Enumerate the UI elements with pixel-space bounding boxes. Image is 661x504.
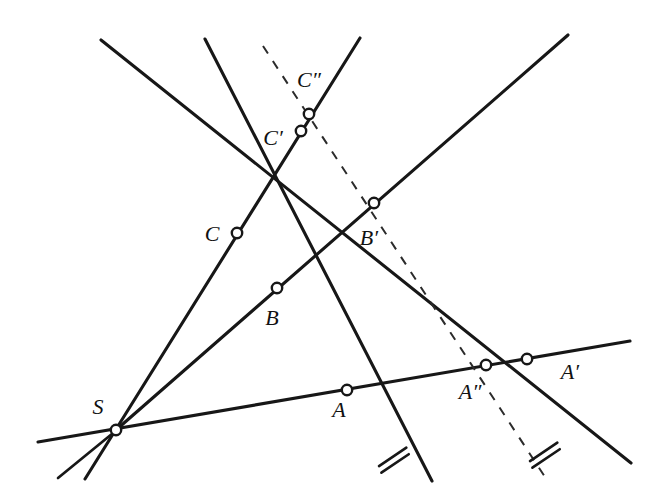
point-marker-S[interactable]	[111, 425, 121, 435]
diagram-canvas: S A B C A′ B′ C′ A″ C″	[0, 0, 661, 504]
point-marker-C[interactable]	[232, 228, 242, 238]
side-line-C-prime-B-prime-A-prime-extended	[101, 40, 631, 463]
point-marker-A-prime[interactable]	[522, 354, 532, 364]
point-marker-A[interactable]	[342, 385, 352, 395]
point-marker-C-double-prime[interactable]	[304, 109, 314, 119]
point-label-B-prime: B′	[360, 225, 379, 250]
point-marker-C-prime[interactable]	[296, 126, 306, 136]
point-label-C-double-prime: C″	[297, 67, 322, 92]
tick-mark-group	[376, 443, 562, 473]
point-label-C: C	[205, 221, 220, 246]
congruence-tick-double-on-line-CBA	[376, 448, 411, 473]
point-label-A-double-prime: A″	[457, 379, 482, 404]
point-label-S: S	[93, 394, 104, 419]
point-label-C-prime: C′	[263, 125, 284, 150]
point-marker-B-prime[interactable]	[369, 198, 379, 208]
point-label-group: S A B C A′ B′ C′ A″ C″	[93, 67, 581, 422]
point-label-A: A	[330, 397, 346, 422]
point-marker-B[interactable]	[272, 283, 282, 293]
point-marker-A-double-prime[interactable]	[481, 360, 491, 370]
point-label-A-prime: A′	[559, 359, 580, 384]
geometry-figure: S A B C A′ B′ C′ A″ C″	[0, 0, 661, 504]
point-label-B: B	[265, 305, 278, 330]
congruence-tick-double-on-dashed-line	[527, 443, 562, 468]
